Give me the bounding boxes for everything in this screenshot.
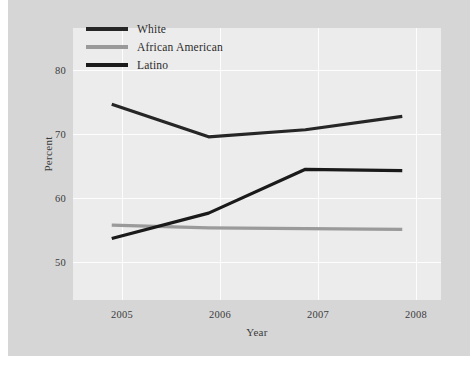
xtick-label-2008: 2008 — [405, 309, 427, 320]
figure-caption — [10, 369, 310, 378]
ytick-label-60: 60 — [55, 193, 66, 204]
xtick-label-2005: 2005 — [111, 309, 133, 320]
figure-area: 80 70 60 50 2005 2006 2007 2008 White — [8, 0, 470, 356]
legend-swatch-white — [86, 27, 128, 31]
series-line-white — [112, 104, 403, 137]
ytick-label-70: 70 — [55, 129, 66, 140]
chart-legend: White African American Latino — [86, 20, 223, 74]
y-axis-title: Percent — [42, 136, 54, 171]
legend-label-white: White — [137, 23, 166, 35]
legend-item-white: White — [86, 20, 223, 38]
xtick-label-2007: 2007 — [307, 309, 329, 320]
x-axis-title: Year — [73, 326, 441, 338]
legend-swatch-latino — [86, 63, 128, 67]
legend-item-african-american: African American — [86, 38, 223, 56]
ytick-label-50: 50 — [55, 257, 66, 268]
legend-swatch-african-american — [86, 45, 128, 49]
xtick-label-2006: 2006 — [209, 309, 231, 320]
legend-item-latino: Latino — [86, 56, 223, 74]
legend-label-latino: Latino — [137, 59, 168, 71]
ytick-label-80: 80 — [55, 65, 66, 76]
legend-label-african-american: African American — [137, 41, 223, 53]
